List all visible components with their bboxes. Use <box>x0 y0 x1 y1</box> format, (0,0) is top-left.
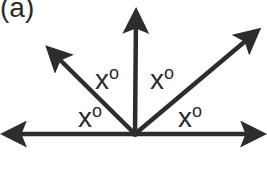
degree-symbol: o <box>109 63 119 83</box>
ray-vertical <box>135 15 136 134</box>
vertex-point <box>132 131 138 137</box>
degree-symbol: o <box>92 101 102 121</box>
angle-diagram <box>0 0 267 170</box>
angle-label-lower-left: xo <box>78 104 102 132</box>
degree-symbol: o <box>164 63 174 83</box>
angle-label-upper-right: xo <box>150 66 174 94</box>
angle-variable: x <box>78 102 92 133</box>
angle-variable: x <box>95 64 109 95</box>
angle-label-lower-right: xo <box>178 104 202 132</box>
angle-variable: x <box>178 102 192 133</box>
angle-label-upper-left: xo <box>95 66 119 94</box>
angle-variable: x <box>150 64 164 95</box>
degree-symbol: o <box>192 101 202 121</box>
